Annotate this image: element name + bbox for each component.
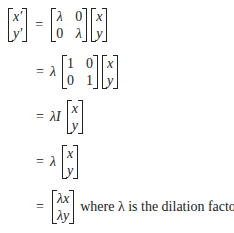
x: x — [67, 145, 73, 162]
y: y — [96, 25, 102, 42]
equation-line-3: = λI x y — [30, 100, 85, 134]
identity-matrix: 1 0 0 1 — [62, 55, 98, 89]
x-prime: x′ — [13, 8, 22, 25]
x: x — [72, 100, 78, 117]
m11: 1 — [67, 55, 74, 72]
xy-vector: x y — [67, 100, 83, 134]
lambda-x: λx — [57, 190, 69, 207]
lambda: λ — [50, 154, 56, 170]
equals-sign: = — [36, 199, 44, 215]
x: x — [96, 8, 102, 25]
y-prime: y′ — [13, 25, 22, 42]
xy-vector: x y — [91, 8, 107, 42]
lambda-xy-vector: λx λy — [52, 190, 74, 224]
dilation-matrix: λ 0 0 λ — [51, 8, 87, 42]
y: y — [107, 72, 113, 89]
equation-line-5: = λx λy where λ is the dilation factor. — [30, 190, 234, 224]
xy-vector: x y — [62, 145, 78, 179]
m22: λ — [76, 25, 82, 42]
lambda: λ — [50, 64, 56, 80]
y: y — [67, 162, 73, 179]
m21: 0 — [67, 72, 74, 89]
m21: 0 — [56, 25, 63, 42]
lambda-y: λy — [57, 207, 69, 224]
y: y — [72, 117, 78, 134]
equals-sign: = — [36, 64, 44, 80]
equals-sign: = — [35, 17, 43, 33]
equation-line-2: = λ 1 0 0 1 x y — [30, 55, 120, 89]
m22: 1 — [86, 72, 93, 89]
equals-sign: = — [36, 154, 44, 170]
lambda-i: λI — [50, 109, 61, 125]
equation-line-4: = λ x y — [30, 145, 80, 179]
xy-vector: x y — [102, 55, 118, 89]
x: x — [107, 55, 113, 72]
m12: 0 — [86, 55, 93, 72]
m11: λ — [57, 8, 63, 25]
lhs-vector: x′ y′ — [8, 8, 27, 42]
m12: 0 — [75, 8, 82, 25]
equals-sign: = — [36, 109, 44, 125]
equation-line-1: x′ y′ = λ 0 0 λ x y — [6, 8, 109, 42]
dilation-caption: where λ is the dilation factor. — [80, 199, 234, 215]
